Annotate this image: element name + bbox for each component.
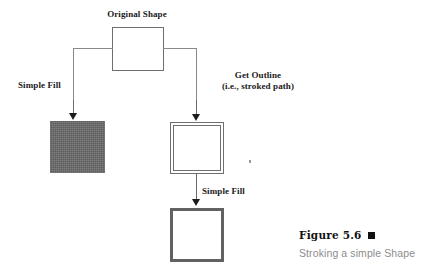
original-shape-label: Original Shape [97, 9, 177, 20]
figure-title: Figure 5.6 [299, 229, 375, 241]
branch-down-label: Simple Fill [202, 186, 245, 197]
branch-right-label-line1: Get Outline [203, 70, 313, 81]
arrow-right-head-icon [192, 114, 200, 121]
arrow-left-head-icon [69, 113, 77, 120]
filled-shape-node [50, 121, 105, 173]
arrow-left-shaft [73, 100, 74, 114]
figure-canvas: Original Shape Simple Fill Get Outline (… [0, 0, 444, 275]
arrow-right-shaft [196, 100, 197, 115]
connector-left-horizontal [73, 48, 113, 49]
connector-right-horizontal [163, 48, 197, 49]
branch-left-label: Simple Fill [18, 80, 61, 91]
figure-title-text: Figure 5.6 [299, 229, 362, 241]
figure-marker-icon [368, 232, 375, 239]
stroked-filled-shape-node [170, 208, 224, 262]
branch-right-label-line2: (i.e., stroked path) [198, 81, 318, 92]
arrow-down-shaft [196, 174, 197, 200]
figure-caption: Stroking a simple Shape [299, 247, 415, 259]
arrow-down-head-icon [192, 199, 200, 206]
stray-speck [249, 160, 251, 163]
connector-left-vertical [73, 48, 74, 100]
original-shape-node [112, 27, 164, 71]
connector-right-vertical [196, 48, 197, 100]
outlined-shape-node-inner [173, 125, 221, 171]
